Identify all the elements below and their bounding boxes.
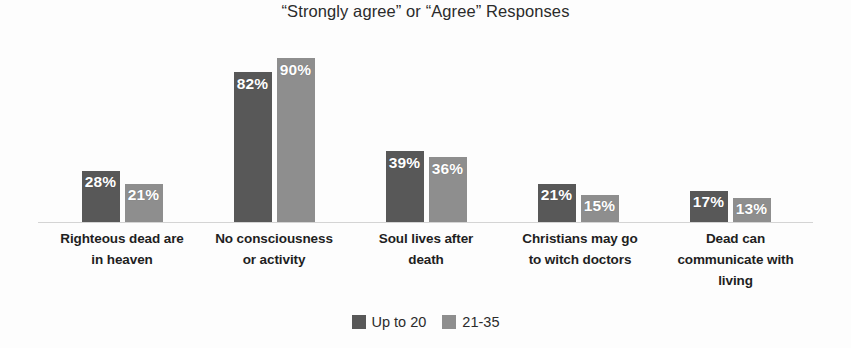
category-axis-labels: Righteous dead are in heaven No consciou… (38, 228, 813, 298)
legend-entry-up-to-20[interactable]: Up to 20 (352, 314, 427, 330)
bar-value-label: 28% (85, 171, 117, 190)
bar-21-35-soul-lives[interactable]: 36% (429, 157, 467, 222)
bar-up-to-20-righteous-dead[interactable]: 28% (82, 171, 120, 222)
bar-value-label: 13% (736, 198, 768, 217)
bar-group-christians-may-go-to-witch-doctors: 21% 15% (532, 40, 624, 222)
category-label-dead-can-communicate-with-living: Dead can communicate with living (658, 228, 813, 291)
bar-up-to-20-dead-communicate[interactable]: 17% (690, 191, 728, 222)
category-label-line: living (658, 270, 813, 291)
bar-group-dead-can-communicate-with-living: 17% 13% (684, 40, 776, 222)
bar-group-no-consciousness-or-activity: 82% 90% (228, 40, 320, 222)
bar-value-label: 39% (389, 151, 421, 171)
bar-value-label: 90% (280, 58, 312, 78)
bar-up-to-20-no-consciousness[interactable]: 82% (234, 72, 272, 222)
category-label-line: or activity (198, 249, 350, 270)
chart-legend: Up to 20 21-35 (0, 314, 851, 330)
legend-label: 21-35 (462, 314, 499, 330)
bar-value-label: 15% (584, 195, 616, 214)
category-label-righteous-dead-are-in-heaven: Righteous dead are in heaven (38, 228, 206, 270)
bar-21-35-dead-communicate[interactable]: 13% (733, 198, 771, 222)
category-label-line: Dead can (658, 228, 813, 249)
category-label-no-consciousness-or-activity: No consciousness or activity (198, 228, 350, 270)
bar-value-label: 17% (693, 191, 725, 210)
category-label-line: Righteous dead are (38, 228, 206, 249)
category-label-line: communicate with (658, 249, 813, 270)
legend-swatch-icon (442, 315, 456, 329)
bar-value-label: 21% (128, 184, 160, 203)
category-label-soul-lives-after-death: Soul lives after death (350, 228, 502, 270)
category-label-line: death (350, 249, 502, 270)
category-label-christians-may-go-to-witch-doctors: Christians may go to witch doctors (500, 228, 660, 270)
category-label-line: to witch doctors (500, 249, 660, 270)
bar-up-to-20-witch-doctors[interactable]: 21% (538, 184, 576, 222)
bar-up-to-20-soul-lives[interactable]: 39% (386, 151, 424, 222)
category-label-line: No consciousness (198, 228, 350, 249)
category-label-line: Soul lives after (350, 228, 502, 249)
bar-21-35-righteous-dead[interactable]: 21% (125, 184, 163, 222)
bar-value-label: 36% (432, 157, 464, 177)
plot-area: 28% 21% 82% 90% 39% 36% 21% 15% (38, 40, 813, 223)
chart-title: “Strongly agree” or “Agree” Responses (0, 2, 851, 21)
bar-value-label: 21% (541, 184, 573, 203)
legend-label: Up to 20 (372, 314, 427, 330)
legend-entry-21-35[interactable]: 21-35 (442, 314, 499, 330)
category-label-line: Christians may go (500, 228, 660, 249)
x-axis-line (38, 222, 813, 223)
bar-group-soul-lives-after-death: 39% 36% (380, 40, 472, 222)
bar-group-righteous-dead-are-in-heaven: 28% 21% (76, 40, 168, 222)
bar-21-35-witch-doctors[interactable]: 15% (581, 195, 619, 222)
bar-value-label: 82% (237, 72, 269, 92)
category-label-line: in heaven (38, 249, 206, 270)
legend-swatch-icon (352, 315, 366, 329)
bar-21-35-no-consciousness[interactable]: 90% (277, 58, 315, 222)
